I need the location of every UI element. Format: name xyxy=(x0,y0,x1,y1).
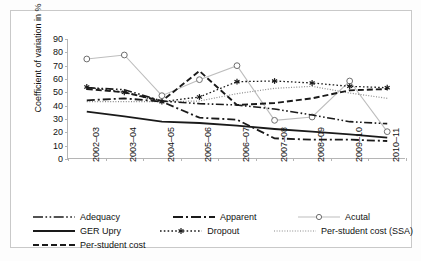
series-ger-upry xyxy=(87,112,387,138)
series-layer xyxy=(68,39,406,159)
legend-item-adequacy[interactable]: Adequacy xyxy=(33,212,173,222)
legend-label: Per-student cost xyxy=(80,240,146,250)
data-point-marker xyxy=(384,129,390,135)
legend-key xyxy=(274,226,316,236)
legend-label: Acutal xyxy=(345,212,370,222)
legend-label: Apparent xyxy=(220,212,257,222)
data-point-marker xyxy=(347,78,353,84)
legend-key xyxy=(33,212,75,222)
legend-label: Per-student cost (SSA) xyxy=(321,226,413,236)
legend-label: GER Upry xyxy=(80,226,121,236)
legend-row: Per-student cost xyxy=(33,240,413,250)
legend-item-per-student-cost[interactable]: Per-student cost xyxy=(33,240,173,250)
legend-key xyxy=(33,226,75,236)
data-point-marker xyxy=(234,63,240,69)
legend-key-icon xyxy=(33,240,75,250)
chart-frame: Coefficient of variation in % 0102030405… xyxy=(10,10,412,248)
figure-canvas: Coefficient of variation in % 0102030405… xyxy=(0,0,421,261)
legend-row: AdequacyApparentAcutal xyxy=(33,212,413,222)
legend-marker-circle xyxy=(316,214,321,219)
series-svg xyxy=(68,39,406,159)
data-point-marker xyxy=(197,77,203,83)
data-point-marker xyxy=(84,56,90,62)
legend-item-per-student-cost-ssa[interactable]: Per-student cost (SSA) xyxy=(274,226,413,236)
legend-label: Dropout xyxy=(207,226,239,236)
data-point-marker xyxy=(121,52,127,58)
legend-key-icon xyxy=(274,226,316,236)
legend-key xyxy=(173,212,215,222)
data-point-marker xyxy=(272,117,278,123)
legend-item-dropout[interactable]: Dropout xyxy=(160,226,274,236)
legend-key xyxy=(33,240,75,250)
legend-key-icon xyxy=(33,226,75,236)
y-axis-title: Coefficient of variation in % xyxy=(33,0,47,123)
x-tick-mark xyxy=(406,158,407,161)
legend-key-icon xyxy=(33,212,75,222)
legend-item-apparent[interactable]: Apparent xyxy=(173,212,298,222)
plot-area: 0102030405060708090 2002–032003–042004–0… xyxy=(67,39,405,159)
legend-key xyxy=(160,226,202,236)
legend-key-icon xyxy=(298,212,340,222)
legend-item-ger-upry[interactable]: GER Upry xyxy=(33,226,160,236)
legend-key xyxy=(298,212,340,222)
legend-label: Adequacy xyxy=(80,212,120,222)
legend-key-icon xyxy=(173,212,215,222)
series-line xyxy=(87,112,387,138)
data-point-marker xyxy=(197,94,202,100)
legend-key-icon xyxy=(160,226,202,236)
legend-item-acutal[interactable]: Acutal xyxy=(298,212,370,222)
legend-row: GER UpryDropoutPer-student cost (SSA) xyxy=(33,226,413,236)
chart-legend: AdequacyApparentAcutalGER UpryDropoutPer… xyxy=(33,212,413,254)
data-point-marker xyxy=(159,93,165,99)
